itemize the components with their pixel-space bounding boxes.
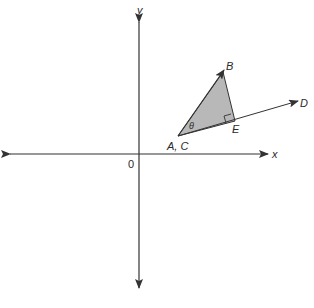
origin-label: 0	[128, 158, 134, 170]
point-d-label: D	[300, 97, 308, 109]
y-axis-label: y	[136, 4, 144, 16]
point-b-label: B	[226, 60, 233, 72]
coordinate-diagram: y x 0 A, C B D E θ	[0, 0, 314, 308]
shaded-triangle	[178, 72, 235, 136]
angle-theta-label: θ	[189, 121, 194, 131]
point-e-label: E	[232, 123, 240, 135]
point-ac-label: A, C	[166, 140, 188, 152]
x-axis-label: x	[271, 148, 278, 160]
